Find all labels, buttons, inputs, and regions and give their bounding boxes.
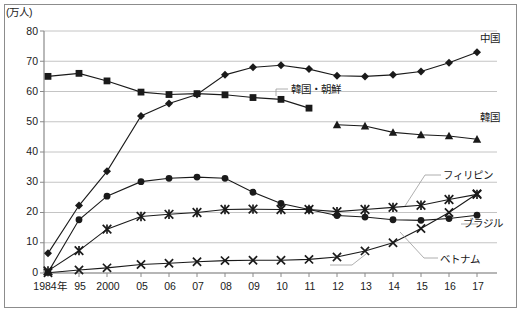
series-label-vietnam: ベトナム: [440, 254, 480, 265]
y-tick-40: 40: [12, 146, 38, 156]
y-tick-20: 20: [12, 206, 38, 216]
y-tick-10: 10: [12, 236, 38, 246]
y-tick-0: 0: [12, 267, 38, 277]
series-label-korea: 韓国: [480, 112, 500, 123]
y-tick-60: 60: [12, 86, 38, 96]
gridlines: [44, 31, 497, 273]
y-tick-50: 50: [12, 116, 38, 126]
series-label-china: 中国: [480, 33, 500, 44]
y-tick-80: 80: [12, 26, 38, 36]
x-tick-17: 17: [458, 281, 498, 291]
series-label-korea-old: 韓国・朝鮮: [291, 84, 341, 95]
series-label-brazil: ブラジル: [463, 218, 503, 229]
series-フィリピン: [44, 190, 482, 276]
chart-container: (万人) 80 70 60 50 40 30 20 10 0 1984年 95 …: [0, 0, 521, 312]
series-ベトナム: [44, 190, 481, 277]
series-韓国: [333, 121, 481, 143]
axes: [40, 31, 477, 277]
y-tick-30: 30: [12, 176, 38, 186]
line-chart-canvas: [0, 0, 521, 312]
series-韓国・朝鮮: [45, 70, 313, 112]
series-label-philippines: フィリピン: [443, 170, 493, 181]
y-tick-70: 70: [12, 56, 38, 66]
